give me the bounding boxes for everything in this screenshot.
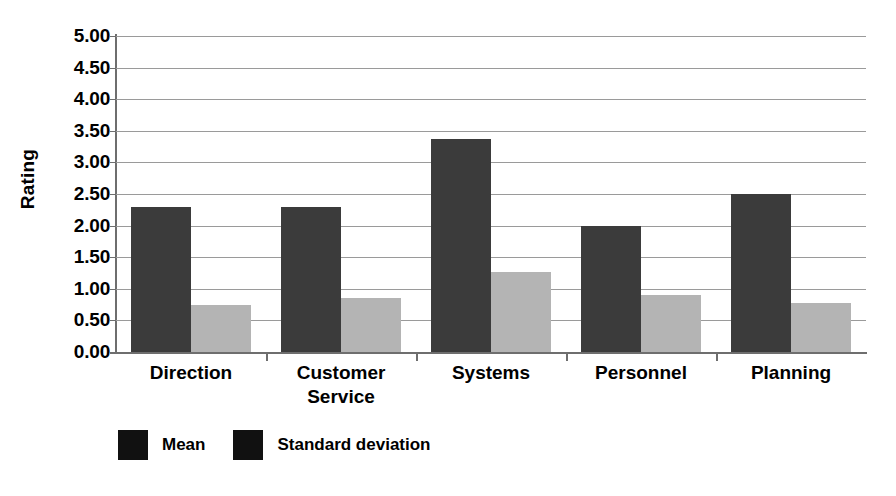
bar-systems-standard-deviation — [491, 272, 551, 352]
y-axis-tick-label: 3.00 — [52, 152, 110, 172]
bar-systems-mean — [431, 139, 491, 352]
y-axis-tick-label: 2.00 — [52, 216, 110, 236]
y-axis-tick-label: 0.50 — [52, 310, 110, 330]
legend-label: Standard deviation — [277, 435, 430, 455]
x-axis-label-line: Planning — [716, 361, 866, 385]
bar-chart-figure: Rating 5.004.504.003.503.002.502.001.501… — [0, 0, 896, 496]
y-axis-tick-label: 1.00 — [52, 279, 110, 299]
x-axis-tick-mark — [716, 352, 718, 361]
bar-direction-mean — [131, 207, 191, 352]
x-axis-tick-mark — [416, 352, 418, 361]
x-axis-label-line: Systems — [416, 361, 566, 385]
y-axis-tick-label: 5.00 — [52, 26, 110, 46]
bar-direction-standard-deviation — [191, 305, 251, 352]
legend-swatch-icon — [118, 430, 148, 460]
bar-planning-standard-deviation — [791, 303, 851, 352]
bars-layer — [116, 36, 866, 352]
x-axis-label-direction: Direction — [116, 361, 266, 385]
legend-entry-mean[interactable]: Mean — [118, 430, 205, 460]
x-axis-label-systems: Systems — [416, 361, 566, 385]
x-axis-label-customer-service: CustomerService — [266, 361, 416, 409]
bar-personnel-mean — [581, 226, 641, 352]
x-axis-label-personnel: Personnel — [566, 361, 716, 385]
x-axis-label-line: Personnel — [566, 361, 716, 385]
y-axis-tick-label: 3.50 — [52, 121, 110, 141]
x-axis-tick-mark — [266, 352, 268, 361]
legend-swatch-icon — [233, 430, 263, 460]
x-axis-tick-mark — [566, 352, 568, 361]
y-axis-tick-labels: 5.004.504.003.503.002.502.001.501.000.50… — [52, 26, 110, 352]
chart-legend: MeanStandard deviation — [118, 430, 459, 460]
y-axis-tick-label: 2.50 — [52, 184, 110, 204]
bar-personnel-standard-deviation — [641, 295, 701, 352]
x-axis-label-line: Service — [266, 385, 416, 409]
bar-customer-service-mean — [281, 207, 341, 352]
y-axis-tick-label: 1.50 — [52, 247, 110, 267]
y-axis-tick-label: 4.00 — [52, 89, 110, 109]
x-axis-line — [110, 352, 867, 354]
y-axis-tick-label: 0.00 — [52, 342, 110, 362]
y-axis-tick-label: 4.50 — [52, 58, 110, 78]
legend-entry-standard-deviation[interactable]: Standard deviation — [233, 430, 430, 460]
legend-label: Mean — [162, 435, 205, 455]
x-axis-label-line: Customer — [266, 361, 416, 385]
bar-customer-service-standard-deviation — [341, 298, 401, 352]
y-axis-title: Rating — [17, 134, 39, 224]
bar-planning-mean — [731, 194, 791, 352]
x-axis-label-planning: Planning — [716, 361, 866, 385]
x-axis-label-line: Direction — [116, 361, 266, 385]
